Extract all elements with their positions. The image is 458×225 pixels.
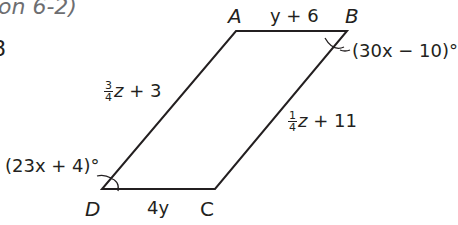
- angle-label-d: (23x + 4)°: [5, 157, 100, 175]
- side-label-ad: 3 4 z + 3: [104, 80, 161, 103]
- angle-leader-b: [340, 50, 350, 51]
- fraction: 3 4: [104, 80, 113, 103]
- side-label-ab: y + 6: [270, 7, 319, 25]
- vertex-label-b: B: [345, 6, 359, 26]
- vertex-label-a: A: [228, 6, 242, 26]
- parallelogram-figure: [0, 0, 458, 225]
- vertex-label-c: C: [200, 199, 214, 219]
- fraction: 1 4: [288, 110, 297, 133]
- side-label-bc: 1 4 z + 11: [288, 110, 357, 133]
- side-label-dc: 4y: [147, 199, 169, 217]
- vertex-label-d: D: [85, 199, 100, 219]
- angle-label-b: (30x − 10)°: [352, 42, 458, 60]
